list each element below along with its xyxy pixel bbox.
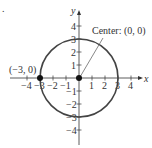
y-axis-arrow-icon xyxy=(77,10,81,15)
x-axis-label: x xyxy=(143,73,149,84)
y-tick-label: 2 xyxy=(71,47,76,58)
y-tick-label: −2 xyxy=(66,99,77,110)
point-center xyxy=(76,75,82,81)
center-label: Center: (0, 0) xyxy=(92,25,146,37)
circle-diagram: . x y −4−3−2−11234−4−3−2−11234 Center: (… xyxy=(0,0,152,148)
x-tick-label: −2 xyxy=(47,80,58,91)
y-axis-label: y xyxy=(70,5,76,16)
point-label: (−3, 0) xyxy=(9,64,36,76)
y-tick-label: −1 xyxy=(66,86,77,97)
x-tick-label: −3 xyxy=(34,80,45,91)
x-tick-label: 2 xyxy=(102,80,107,91)
x-tick-label: 4 xyxy=(128,80,133,91)
x-axis-arrow-icon xyxy=(138,76,143,80)
x-tick-label: −4 xyxy=(21,80,32,91)
point-left-point xyxy=(37,75,43,81)
stray-mark: . xyxy=(2,3,5,14)
y-tick-label: −4 xyxy=(66,125,77,136)
x-tick-label: 1 xyxy=(89,80,94,91)
y-tick-label: 1 xyxy=(71,60,76,71)
y-tick-label: 4 xyxy=(71,21,76,32)
center-leader-line xyxy=(80,38,103,77)
